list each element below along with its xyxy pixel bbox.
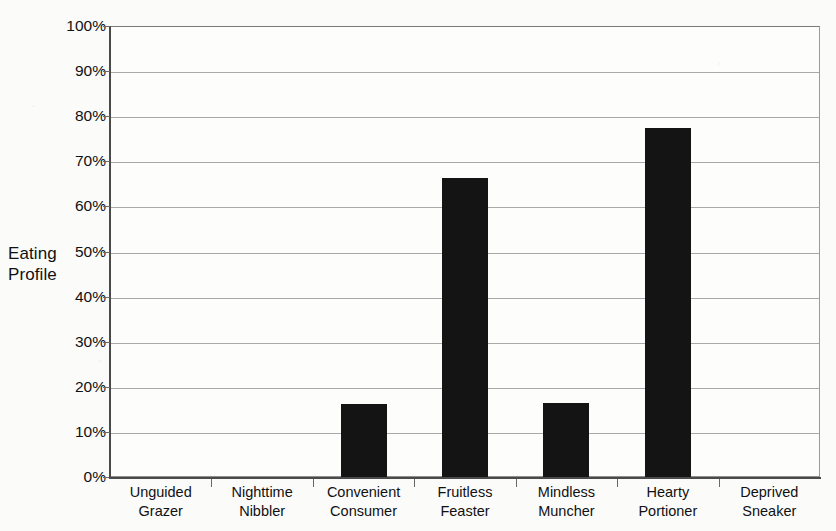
y-axis-tick-mark [103,161,110,162]
y-axis-tick-labels: 0%10%20%30%40%50%60%70%80%90%100% [52,0,106,531]
y-axis-tick-mark [103,206,110,207]
x-axis-category-label: FruitlessFeaster [414,483,515,521]
x-axis-category-label-line: Mindless [516,483,617,502]
y-axis-tick-marks [103,26,110,478]
x-axis-category-label-line: Feaster [414,502,515,521]
x-axis-category-label-line: Nibbler [211,502,312,521]
x-axis-category-label-line: Grazer [110,502,211,521]
bars-layer [110,26,820,477]
x-axis-category-label: ConvenientConsumer [313,483,414,521]
y-axis-tick-mark [103,26,110,27]
x-axis-category-label-line: Consumer [313,502,414,521]
bar [442,178,488,477]
y-axis-tick-label: 60% [52,198,106,214]
x-axis-category-label: HeartyPortioner [617,483,718,521]
y-axis-tick-mark [103,297,110,298]
x-axis-category-label-line: Deprived [719,483,820,502]
y-axis-tick-label: 20% [52,379,106,395]
bar [543,403,589,477]
y-axis-tick-label: 30% [52,334,106,350]
x-axis-category-label-line: Fruitless [414,483,515,502]
x-axis-category-label: UnguidedGrazer [110,483,211,521]
y-axis-tick-label: 90% [52,63,106,79]
y-axis-tick-label: 50% [52,244,106,260]
x-axis-category-label-line: Unguided [110,483,211,502]
x-axis-category-label-line: Sneaker [719,502,820,521]
x-axis-category-label-line: Portioner [617,502,718,521]
x-axis-category-label: MindlessMuncher [516,483,617,521]
y-axis-tick-label: 70% [52,153,106,169]
y-axis-tick-label: 0% [52,469,106,485]
x-axis-category-labels: UnguidedGrazerNighttimeNibblerConvenient… [110,483,820,531]
bar-chart: Eating Profile 0%10%20%30%40%50%60%70%80… [0,0,836,531]
y-axis-tick-mark [103,342,110,343]
x-axis-category-label: NighttimeNibbler [211,483,312,521]
y-axis-tick-mark [103,432,110,433]
x-axis-category-label-line: Convenient [313,483,414,502]
y-axis-tick-label: 10% [52,424,106,440]
x-axis-category-label-line: Muncher [516,502,617,521]
y-axis-tick-label: 40% [52,289,106,305]
y-axis-tick-mark [103,252,110,253]
y-axis-tick-mark [103,387,110,388]
y-axis-tick-label: 100% [52,18,106,34]
y-axis-tick-mark [103,116,110,117]
x-axis-category-label-line: Hearty [617,483,718,502]
bar [645,128,691,477]
x-axis-category-label-line: Nighttime [211,483,312,502]
bar [341,404,387,477]
x-axis-category-label: DeprivedSneaker [719,483,820,521]
y-axis-tick-mark [103,71,110,72]
y-axis-tick-label: 80% [52,108,106,124]
